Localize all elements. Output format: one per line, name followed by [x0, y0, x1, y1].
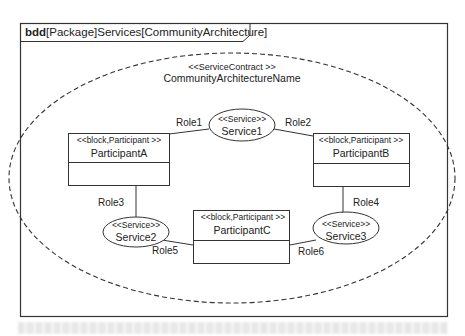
service-stereotype: <<Service>> [218, 114, 266, 124]
block-stereotype: <<block,Participant >> [77, 135, 162, 145]
service-1[interactable]: <<Service>> Service1 [209, 109, 275, 141]
service-stereotype: <<Service>> [112, 220, 160, 230]
block-participant-b[interactable]: <<block,Participant >> ParticipantB [314, 134, 410, 187]
bdd-diagram: bdd[Package]Services[CommunityArchitectu… [0, 0, 465, 336]
role-label-6: Role6 [298, 246, 325, 257]
service-name: Service3 [326, 230, 367, 242]
blurred-caption [18, 322, 448, 334]
frame-title: bdd[Package]Services[CommunityArchitectu… [25, 26, 267, 38]
block-name: ParticipantA [91, 147, 148, 159]
service-stereotype: <<Service>> [322, 219, 370, 229]
role-label-2: Role2 [285, 117, 312, 128]
block-stereotype: <<block,Participant >> [319, 135, 404, 145]
role-label-1: Role1 [176, 117, 203, 128]
service-2[interactable]: <<Service>> Service2 [103, 217, 169, 247]
contract-name: CommunityArchitectureName [163, 72, 300, 84]
service-name: Service1 [222, 125, 263, 137]
block-participant-c[interactable]: <<block,Participant >> ParticipantC [194, 211, 290, 264]
service-3[interactable]: <<Service>> Service3 [313, 212, 379, 244]
frame-title-text: [Package]Services[CommunityArchitecture] [46, 26, 267, 38]
block-name: ParticipantC [213, 224, 271, 236]
block-stereotype: <<block,Participant >> [201, 212, 286, 222]
role-label-4: Role4 [353, 197, 380, 208]
role-label-5: Role5 [152, 245, 179, 256]
role-label-3: Role3 [98, 197, 125, 208]
frame-kind: bdd [25, 26, 46, 38]
contract-stereotype: <<ServiceContract >> [188, 62, 276, 72]
block-name: ParticipantB [333, 147, 390, 159]
service-name: Service2 [116, 231, 157, 243]
block-participant-a[interactable]: <<block,Participant >> ParticipantA [69, 134, 170, 186]
